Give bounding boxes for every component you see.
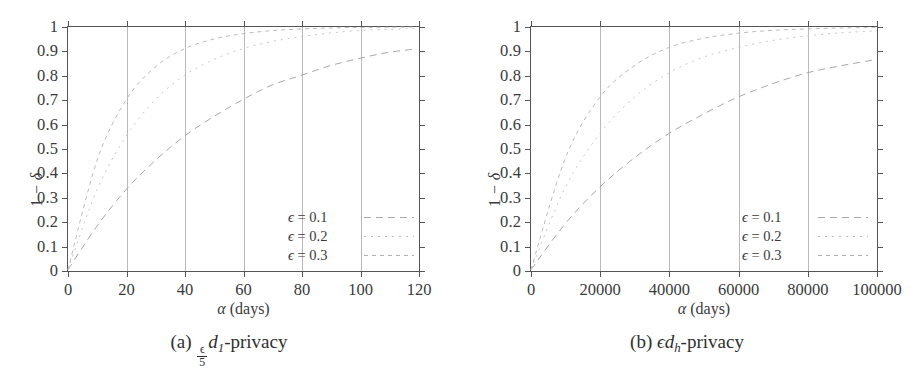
y-tick-label-a: 0.8 xyxy=(37,66,58,86)
legend-entry-a-3[interactable]: ϵ = 0.3 xyxy=(288,246,414,265)
legend-entry-a-2[interactable]: ϵ = 0.2 xyxy=(288,227,414,246)
legend-entry-b-2[interactable]: ϵ = 0.2 xyxy=(742,227,868,246)
y-tick-right-b xyxy=(877,76,883,77)
y-tick-b xyxy=(525,149,531,150)
x-tick-label-a: 40 xyxy=(177,280,194,300)
y-tick-label-a: 0 xyxy=(50,261,58,281)
caption-a-prefix: (a) xyxy=(171,331,192,352)
x-tick-label-a: 80 xyxy=(294,280,311,300)
y-tick-right-b xyxy=(877,222,883,223)
x-tick-top-b xyxy=(877,21,878,27)
caption-a-fraction: ϵ 5 xyxy=(197,344,207,369)
x-tick-b xyxy=(739,271,740,277)
y-tick-label-b: 0.2 xyxy=(500,212,521,232)
y-tick-label-b: 0 xyxy=(513,261,521,281)
legend-line-sample-b-3 xyxy=(818,255,868,256)
y-tick-label-b: 0.7 xyxy=(500,90,521,110)
x-tick-a xyxy=(302,271,303,277)
x-tick-top-a xyxy=(419,21,420,27)
y-tick-right-a xyxy=(419,27,425,28)
y-tick-right-b xyxy=(877,247,883,248)
x-tick-label-a: 100 xyxy=(348,280,373,300)
y-tick-right-a xyxy=(419,51,425,52)
legend-entry-a-1[interactable]: ϵ = 0.1 xyxy=(288,208,414,227)
y-tick-a xyxy=(62,247,68,248)
y-tick-label-b: 0.6 xyxy=(500,115,521,135)
legend-entry-b-3[interactable]: ϵ = 0.3 xyxy=(742,246,868,265)
x-tick-label-b: 0 xyxy=(527,280,535,300)
x-tick-label-a: 60 xyxy=(235,280,252,300)
legend-line-sample-a-1 xyxy=(364,217,414,218)
caption-a-suffix: -privacy xyxy=(224,331,287,352)
x-tick-top-b xyxy=(531,21,532,27)
legend-line-sample-b-2 xyxy=(818,236,868,237)
x-tick-top-a xyxy=(127,21,128,27)
caption-a-symbol: d xyxy=(208,331,218,352)
x-tick-label-a: 20 xyxy=(118,280,135,300)
x-tick-a xyxy=(419,271,420,277)
y-tick-b xyxy=(525,51,531,52)
y-tick-right-a xyxy=(419,149,425,150)
x-tick-b xyxy=(531,271,532,277)
legend-a: ϵ = 0.1ϵ = 0.2ϵ = 0.3 xyxy=(288,208,414,265)
y-tick-label-a: 0.9 xyxy=(37,41,58,61)
panel-a: 1 − δ 00.10.20.30.40.50.60.70.80.9102040… xyxy=(0,0,458,379)
y-tick-b xyxy=(525,198,531,199)
x-tick-label-a: 0 xyxy=(64,280,72,300)
y-tick-right-b xyxy=(877,125,883,126)
y-tick-label-a: 0.6 xyxy=(37,115,58,135)
caption-a: (a) ϵ 5 d1-privacy xyxy=(0,331,458,369)
y-tick-a xyxy=(62,173,68,174)
y-tick-right-b xyxy=(877,173,883,174)
y-tick-a xyxy=(62,222,68,223)
y-tick-b xyxy=(525,76,531,77)
x-tick-top-b xyxy=(808,21,809,27)
y-tick-label-b: 0.4 xyxy=(500,163,521,183)
x-tick-b xyxy=(808,271,809,277)
y-tick-right-a xyxy=(419,100,425,101)
y-tick-label-a: 0.3 xyxy=(37,188,58,208)
caption-a-denominator: 5 xyxy=(197,356,207,369)
y-tick-label-a: 0.5 xyxy=(37,139,58,159)
x-axis-title-b: α (days) xyxy=(530,300,878,318)
y-tick-a xyxy=(62,76,68,77)
legend-label-b-3: ϵ = 0.3 xyxy=(742,246,806,265)
x-tick-label-b: 100000 xyxy=(852,280,902,300)
y-tick-b xyxy=(525,173,531,174)
caption-b-symbol: ϵd xyxy=(657,331,674,352)
x-tick-top-b xyxy=(739,21,740,27)
caption-b-prefix: (b) xyxy=(630,331,652,352)
y-tick-right-b xyxy=(877,51,883,52)
y-tick-right-b xyxy=(877,27,883,28)
y-tick-right-a xyxy=(419,247,425,248)
x-tick-top-b xyxy=(600,21,601,27)
y-tick-label-b: 0.8 xyxy=(500,66,521,86)
y-tick-label-b: 0.9 xyxy=(500,41,521,61)
y-tick-right-b xyxy=(877,198,883,199)
y-tick-label-a: 0.2 xyxy=(37,212,58,232)
x-tick-a xyxy=(361,271,362,277)
y-tick-a xyxy=(62,198,68,199)
y-tick-a xyxy=(62,100,68,101)
x-tick-a xyxy=(68,271,69,277)
y-tick-a xyxy=(62,125,68,126)
y-tick-b xyxy=(525,247,531,248)
y-tick-label-b: 1 xyxy=(513,17,521,37)
legend-entry-b-1[interactable]: ϵ = 0.1 xyxy=(742,208,868,227)
y-tick-b xyxy=(525,222,531,223)
y-tick-right-a xyxy=(419,222,425,223)
x-tick-b xyxy=(669,271,670,277)
x-tick-label-b: 80000 xyxy=(787,280,828,300)
x-tick-label-b: 40000 xyxy=(649,280,690,300)
x-tick-b xyxy=(600,271,601,277)
y-tick-a xyxy=(62,27,68,28)
caption-b: (b) ϵdh-privacy xyxy=(458,331,916,356)
x-tick-a xyxy=(185,271,186,277)
x-tick-a xyxy=(127,271,128,277)
legend-b: ϵ = 0.1ϵ = 0.2ϵ = 0.3 xyxy=(742,208,868,265)
x-tick-top-a xyxy=(302,21,303,27)
x-tick-top-a xyxy=(361,21,362,27)
legend-label-a-2: ϵ = 0.2 xyxy=(288,227,352,246)
y-tick-label-a: 1 xyxy=(50,17,58,37)
legend-line-sample-a-2 xyxy=(364,236,414,237)
